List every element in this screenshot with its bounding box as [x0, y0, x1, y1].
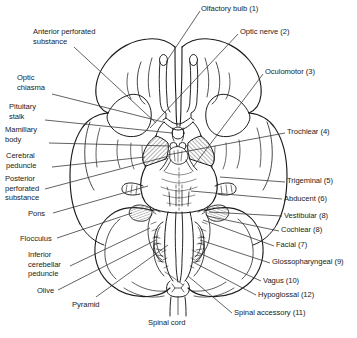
brain-anatomy-figure: Anterior perforated substance Optic chia…	[0, 0, 357, 338]
leader-flocculus	[57, 213, 132, 238]
cerebral-peduncle-left	[143, 136, 169, 166]
label-cerebral-peduncle: Cerebral peduncle	[6, 151, 36, 170]
leader-glossopharyngeal	[200, 240, 270, 263]
label-pituitary-stalk: Pituitary stalk	[9, 102, 36, 121]
label-trigeminal: Trigeminal (5)	[287, 176, 333, 186]
hypoglossal-rootlets	[162, 250, 196, 268]
label-trochlear: Trochlear (4)	[287, 127, 330, 137]
label-facial: Facial (7)	[276, 240, 307, 250]
leader-facial	[203, 220, 274, 246]
leader-pyramid	[96, 245, 168, 297]
leader-oculomotor	[193, 74, 263, 167]
label-mamillary-body: Mamillary body	[5, 125, 37, 144]
flocculus-left	[129, 205, 152, 221]
leader-trigeminal	[220, 177, 285, 182]
cerebellum-right	[188, 208, 263, 297]
label-flocculus: Flocculus	[20, 234, 52, 244]
label-olfactory-bulb: Olfactory bulb (1)	[201, 4, 258, 14]
label-inferior-cerebellar-peduncle: Inferior cerebellar peduncle	[28, 250, 61, 279]
leader-spinal-accessory	[188, 276, 232, 313]
label-optic-nerve: Optic nerve (2)	[240, 27, 289, 37]
pituitary-stalk	[172, 127, 184, 141]
label-vagus: Vagus (10)	[263, 276, 299, 286]
label-spinal-accessory: Spinal accessory (11)	[234, 308, 305, 318]
leader-anterior-perforated-substance	[74, 47, 156, 123]
label-vestibular: Vestibular (8)	[284, 211, 328, 221]
leader-cerebral-peduncle	[52, 157, 145, 167]
leader-cochlear	[207, 216, 279, 231]
leader-vagus	[197, 252, 261, 281]
cerebral-peduncle-right	[188, 136, 215, 166]
label-pons: Pons	[28, 209, 45, 219]
temporal-lobe-right	[206, 94, 287, 245]
label-pyramid: Pyramid	[72, 300, 100, 310]
leader-abducent	[191, 191, 282, 199]
label-abducent: Abducent (6)	[284, 194, 327, 204]
label-posterior-perforated-substance: Posterior perforated substance	[5, 174, 39, 203]
label-cochlear: Cochlear (8)	[281, 225, 322, 235]
temporal-lobe-left	[70, 94, 151, 245]
label-optic-chiasma: Optic chiasma	[17, 73, 45, 92]
posterior-perforated-substance	[170, 147, 188, 165]
label-glossopharyngeal: Glossopharyngeal (9)	[272, 257, 344, 267]
label-oculomotor: Oculomotor (3)	[265, 67, 315, 77]
label-spinal-cord: Spinal cord	[148, 318, 185, 328]
leader-inferior-cerebellar-peduncle	[70, 228, 150, 266]
leader-hypoglossal	[193, 262, 256, 295]
label-anterior-perforated-substance: Anterior perforated substance	[33, 27, 95, 46]
label-olive: Olive	[37, 286, 54, 296]
leader-optic-nerve	[150, 34, 238, 128]
label-hypoglossal: Hypoglossal (12)	[258, 290, 314, 300]
pons	[141, 166, 218, 213]
